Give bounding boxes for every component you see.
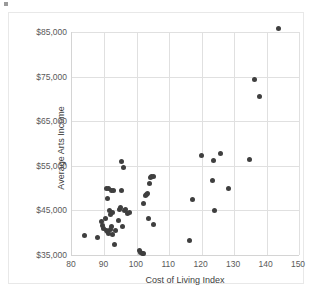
scatter-point — [141, 251, 146, 256]
scatter-point — [145, 191, 150, 196]
scatter-point — [226, 186, 231, 191]
y-axis-tick-label: $45,000 — [11, 205, 67, 215]
y-axis-tick-label: $55,000 — [11, 161, 67, 171]
scatter-point — [276, 26, 281, 31]
scatter-point — [119, 159, 124, 164]
gridline-vertical — [299, 32, 300, 255]
gridline-horizontal — [72, 121, 299, 122]
scatter-point — [120, 224, 125, 229]
gridline-horizontal — [72, 77, 299, 78]
y-axis-tick-label: $75,000 — [11, 72, 67, 82]
scatter-point — [199, 153, 204, 158]
gridline-vertical — [104, 32, 105, 255]
plot-area — [71, 32, 299, 256]
scatter-point — [127, 210, 132, 215]
scatter-point — [190, 197, 195, 202]
gridline-vertical — [267, 32, 268, 255]
x-axis-title: Cost of Living Index — [71, 275, 299, 285]
scatter-point — [247, 157, 252, 162]
gridline-horizontal — [72, 166, 299, 167]
gridline-vertical — [234, 32, 235, 255]
gridline-vertical — [137, 32, 138, 255]
scatter-point — [82, 233, 87, 238]
scatter-point — [211, 158, 216, 163]
chart-frame: Average Arts Income Cost of Living Index… — [8, 12, 304, 284]
scatter-point — [151, 222, 156, 227]
corner-mark — [4, 2, 8, 6]
scatter-point — [187, 238, 192, 243]
scatter-point — [103, 216, 108, 221]
y-axis-tick-label: $65,000 — [11, 116, 67, 126]
scatter-point — [146, 216, 151, 221]
scatter-point — [112, 242, 117, 247]
scatter-point — [257, 94, 262, 99]
scatter-point — [111, 188, 116, 193]
scatter-point — [105, 196, 110, 201]
scatter-point — [252, 77, 257, 82]
scatter-point — [113, 228, 118, 233]
gridline-horizontal — [72, 210, 299, 211]
scatter-point — [121, 165, 126, 170]
y-axis-tick-label: $85,000 — [11, 27, 67, 37]
scatter-point — [116, 218, 121, 223]
gridline-horizontal — [72, 32, 299, 33]
gridline-vertical — [169, 32, 170, 255]
scatter-point — [141, 201, 146, 206]
scatter-point — [110, 210, 115, 215]
x-axis-tick-label: 150 — [278, 259, 314, 269]
scatter-point — [212, 208, 217, 213]
scatter-point — [210, 178, 215, 183]
gridline-vertical — [202, 32, 203, 255]
scatter-point — [119, 188, 124, 193]
scatter-point — [147, 181, 152, 186]
scatter-point — [151, 174, 156, 179]
scatter-point — [218, 151, 223, 156]
scatter-point — [95, 235, 100, 240]
